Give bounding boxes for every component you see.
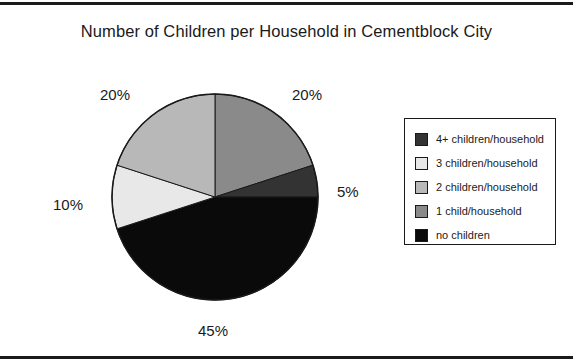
legend-color-swatch-icon [415, 181, 428, 194]
legend-color-swatch-icon [415, 133, 428, 146]
legend-item[interactable]: 1 child/household [415, 200, 555, 222]
legend-item[interactable]: 3 children/household [415, 152, 555, 174]
legend-item-label: 4+ children/household [436, 134, 544, 145]
pie-slice-group [112, 94, 318, 300]
legend-item[interactable]: 2 children/household [415, 176, 555, 198]
legend-item-label: 3 children/household [436, 158, 538, 169]
legend-item-label: 1 child/household [436, 206, 522, 217]
legend-item[interactable]: no children [415, 224, 555, 246]
pie-percentage-label: 45% [198, 322, 228, 339]
legend-item-label: 2 children/household [436, 182, 538, 193]
legend-color-swatch-icon [415, 157, 428, 170]
legend-box: 4+ children/household 3 children/househo… [404, 118, 556, 245]
pie-percentage-label: 20% [292, 86, 322, 103]
legend-item-label: no children [436, 230, 490, 241]
chart-page: Number of Children per Household in Ceme… [0, 0, 573, 363]
legend-color-swatch-icon [415, 205, 428, 218]
legend-item[interactable]: 4+ children/household [415, 128, 555, 150]
pie-percentage-label: 20% [100, 86, 130, 103]
pie-percentage-label: 10% [53, 196, 83, 213]
legend-color-swatch-icon [415, 229, 428, 242]
pie-percentage-label: 5% [337, 183, 359, 200]
